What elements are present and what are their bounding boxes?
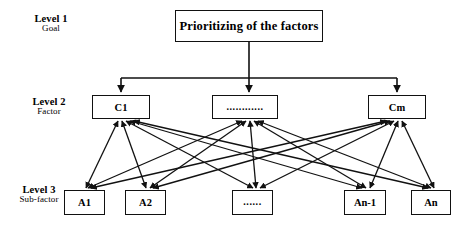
subfactor-node-an-1-label: An-1 <box>354 197 376 208</box>
goal-node-label: Prioritizing of the factors <box>179 19 318 34</box>
subfactor-node-a2-label: A2 <box>139 197 152 208</box>
level-1-label: Level 1 Goal <box>14 13 88 34</box>
subfactor-node-ellipsis[interactable]: ...... <box>232 190 273 215</box>
level-2-subtitle: Factor <box>10 107 88 117</box>
subfactor-node-a2[interactable]: A2 <box>125 190 166 215</box>
factor-node-c1[interactable]: C1 <box>92 95 150 119</box>
hierarchy-diagram: Level 1 Goal Level 2 Factor Level 3 Sub-… <box>0 0 458 228</box>
subfactor-node-an[interactable]: An <box>411 190 451 215</box>
goal-to-factor-connectors <box>121 42 397 92</box>
subfactor-node-an-label: An <box>424 197 437 208</box>
subfactor-node-ellipsis-label: ...... <box>243 196 262 207</box>
factor-node-cm-label: Cm <box>389 102 405 113</box>
factor-node-ellipsis[interactable]: ............ <box>212 95 278 119</box>
factor-node-cm[interactable]: Cm <box>368 95 426 119</box>
factor-node-ellipsis-label: ............ <box>226 101 263 112</box>
level-3-subtitle: Sub-factor <box>6 195 72 205</box>
level-3-label: Level 3 Sub-factor <box>6 184 72 205</box>
subfactor-node-a1[interactable]: A1 <box>64 190 105 215</box>
subfactor-node-an-1[interactable]: An-1 <box>344 190 386 215</box>
factor-node-c1-label: C1 <box>115 102 128 113</box>
level-2-label: Level 2 Factor <box>10 96 88 117</box>
level-1-subtitle: Goal <box>14 24 88 34</box>
factor-to-subfactor-mesh <box>86 121 434 188</box>
subfactor-node-a1-label: A1 <box>78 197 91 208</box>
goal-node[interactable]: Prioritizing of the factors <box>175 10 323 42</box>
